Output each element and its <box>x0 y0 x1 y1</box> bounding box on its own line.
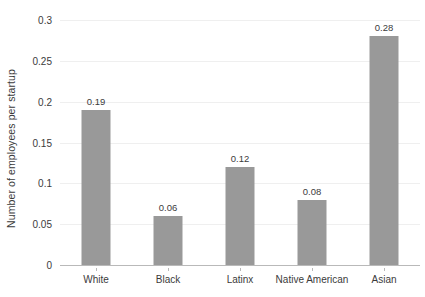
plot-area: 0.190.060.120.080.28 <box>60 20 420 265</box>
bar[interactable] <box>370 36 399 265</box>
x-tick-label: Native American <box>276 274 349 285</box>
bar-group[interactable]: 0.28 <box>370 20 399 265</box>
bar-value-label: 0.08 <box>303 186 322 197</box>
x-tick-label: Latinx <box>227 274 254 285</box>
x-tick-mark <box>384 268 385 271</box>
bar-group[interactable]: 0.06 <box>154 20 183 265</box>
axis-baseline <box>60 265 420 266</box>
bar[interactable] <box>82 110 111 265</box>
y-tick-label: 0 <box>4 260 52 271</box>
bar[interactable] <box>154 216 183 265</box>
y-tick-label: 0.1 <box>4 178 52 189</box>
x-tick-mark <box>312 268 313 271</box>
x-tick-label: Asian <box>371 274 396 285</box>
bar-value-label: 0.06 <box>159 202 178 213</box>
y-tick-label: 0.2 <box>4 96 52 107</box>
x-tick-mark <box>240 268 241 271</box>
bar-value-label: 0.19 <box>87 96 106 107</box>
x-tick-label: Black <box>156 274 180 285</box>
bar[interactable] <box>298 200 327 265</box>
bar-group[interactable]: 0.08 <box>298 20 327 265</box>
bar-group[interactable]: 0.12 <box>226 20 255 265</box>
y-tick-label: 0.25 <box>4 55 52 66</box>
x-tick-mark <box>168 268 169 271</box>
bar-chart: Number of employees per startup 00.050.1… <box>0 0 425 297</box>
x-tick-label: White <box>83 274 109 285</box>
x-tick-mark <box>96 268 97 271</box>
x-axis-tick-labels: WhiteBlackLatinxNative AmericanAsian <box>60 268 420 288</box>
bar-value-label: 0.12 <box>231 153 250 164</box>
bar[interactable] <box>226 167 255 265</box>
bar-group[interactable]: 0.19 <box>82 20 111 265</box>
y-tick-label: 0.3 <box>4 15 52 26</box>
y-tick-label: 0.05 <box>4 219 52 230</box>
y-tick-label: 0.15 <box>4 137 52 148</box>
y-axis-tick-labels: 00.050.10.150.20.250.3 <box>0 20 60 265</box>
bar-value-label: 0.28 <box>375 22 394 33</box>
